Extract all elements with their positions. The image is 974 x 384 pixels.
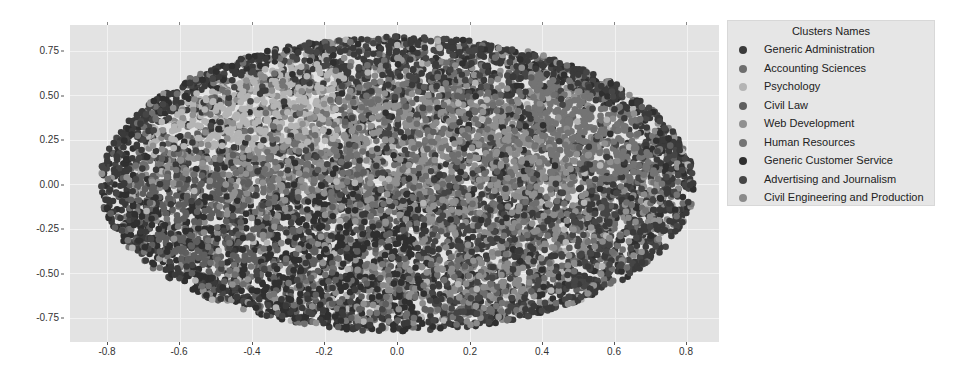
legend-marker-icon xyxy=(739,157,747,165)
legend-marker-icon xyxy=(739,120,747,128)
legend-marker-icon xyxy=(739,46,747,54)
x-tick-label: 0.8 xyxy=(679,346,693,357)
legend-marker-icon xyxy=(739,102,747,110)
y-tick-label: 0.50 xyxy=(40,90,64,101)
x-tick-mark-top xyxy=(324,22,325,25)
x-tick-mark-top xyxy=(397,22,398,25)
legend: Clusters Names Generic Administration Ac… xyxy=(727,20,935,206)
legend-item: Accounting Sciences xyxy=(728,61,934,79)
legend-marker-icon xyxy=(739,65,747,73)
x-tick-label: 0.2 xyxy=(463,346,477,357)
y-tick-label: 0.00 xyxy=(40,179,64,190)
x-tick-label: -0.2 xyxy=(315,346,332,357)
plot-area xyxy=(70,25,719,342)
x-tick-mark xyxy=(324,342,325,345)
x-tick-label: 0.6 xyxy=(607,346,621,357)
x-tick-mark xyxy=(397,342,398,345)
x-tick-mark xyxy=(179,342,180,345)
y-tick-label: -0.50 xyxy=(36,268,64,279)
x-tick-label: 0.0 xyxy=(390,346,404,357)
x-tick-mark xyxy=(252,342,253,345)
x-tick-mark xyxy=(542,342,543,345)
x-tick-label: -0.8 xyxy=(98,346,115,357)
x-tick-label: -0.6 xyxy=(170,346,187,357)
x-tick-mark-top xyxy=(179,22,180,25)
x-tick-mark-top xyxy=(470,22,471,25)
x-tick-label: -0.4 xyxy=(243,346,260,357)
x-tick-mark xyxy=(614,342,615,345)
legend-item: Web Development xyxy=(728,116,934,134)
x-tick-label: 0.4 xyxy=(535,346,549,357)
legend-title: Clusters Names xyxy=(728,25,934,41)
legend-marker-icon xyxy=(739,139,747,147)
legend-marker-icon xyxy=(739,83,747,91)
legend-item: Human Resources xyxy=(728,135,934,153)
y-tick-label: -0.75 xyxy=(36,312,64,323)
x-tick-mark-top xyxy=(614,22,615,25)
legend-marker-icon xyxy=(739,176,747,184)
x-tick-mark-top xyxy=(107,22,108,25)
x-tick-mark-top xyxy=(252,22,253,25)
legend-item: Generic Administration xyxy=(728,42,934,60)
scatter-points xyxy=(70,25,719,342)
x-tick-mark xyxy=(470,342,471,345)
x-tick-mark xyxy=(107,342,108,345)
legend-item: Generic Customer Service xyxy=(728,153,934,171)
x-tick-mark xyxy=(686,342,687,345)
legend-item: Psychology xyxy=(728,79,934,97)
x-tick-mark-top xyxy=(686,22,687,25)
legend-marker-icon xyxy=(739,194,747,202)
y-tick-label: 0.25 xyxy=(40,134,64,145)
legend-item: Advertising and Journalism xyxy=(728,172,934,190)
legend-item: Civil Engineering and Production xyxy=(728,190,934,208)
y-tick-label: -0.25 xyxy=(36,223,64,234)
y-tick-label: 0.75 xyxy=(40,45,64,56)
legend-item: Civil Law xyxy=(728,98,934,116)
x-tick-mark-top xyxy=(542,22,543,25)
